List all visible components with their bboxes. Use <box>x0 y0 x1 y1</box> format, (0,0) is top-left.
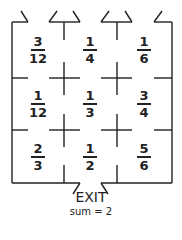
cell-r1c1[interactable]: 3 12 <box>12 24 64 76</box>
denominator: 4 <box>85 52 94 65</box>
denominator: 3 <box>33 159 42 172</box>
denominator: 2 <box>85 159 94 172</box>
numerator: 1 <box>85 89 94 102</box>
denominator: 12 <box>29 52 47 65</box>
cell-r2c3[interactable]: 3 4 <box>118 78 170 130</box>
denominator: 3 <box>85 106 94 119</box>
denominator: 6 <box>139 159 148 172</box>
numerator: 5 <box>139 142 148 155</box>
exit-label: EXIT <box>0 189 182 205</box>
cell-r1c2[interactable]: 1 4 <box>64 24 116 76</box>
numerator: 1 <box>85 142 94 155</box>
denominator: 4 <box>139 106 148 119</box>
numerator: 1 <box>85 35 94 48</box>
sum-label: sum = 2 <box>0 206 182 218</box>
numerator: 1 <box>33 89 42 102</box>
cell-r3c3[interactable]: 5 6 <box>118 131 170 183</box>
cell-r3c1[interactable]: 2 3 <box>12 131 64 183</box>
cell-r3c2[interactable]: 1 2 <box>64 131 116 183</box>
cell-r1c3[interactable]: 1 6 <box>118 24 170 76</box>
denominator: 12 <box>29 106 47 119</box>
cell-r2c1[interactable]: 1 12 <box>12 78 64 130</box>
denominator: 6 <box>139 52 148 65</box>
cell-r2c2[interactable]: 1 3 <box>64 78 116 130</box>
numerator: 3 <box>139 89 148 102</box>
numerator: 1 <box>139 35 148 48</box>
numerator: 2 <box>33 142 42 155</box>
numerator: 3 <box>33 35 42 48</box>
